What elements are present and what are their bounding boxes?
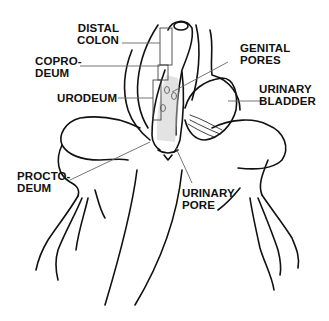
right-foot-3 <box>250 198 274 290</box>
label-line: BLADDER <box>259 95 316 107</box>
label-line: PROCTO- <box>17 170 71 182</box>
body-outline-left <box>137 25 158 128</box>
label-line: DEUM <box>35 67 82 79</box>
label-coprodeum: COPRO- DEUM <box>35 55 82 79</box>
label-distal-colon: DISTAL COLON <box>77 22 119 46</box>
label-line: DISTAL <box>77 22 119 34</box>
vent <box>164 155 172 160</box>
label-urinary-pore: URINARY PORE <box>182 187 235 211</box>
label-urinary-bladder: URINARY BLADDER <box>259 83 316 107</box>
label-line: PORES <box>240 54 290 66</box>
lower-body-right <box>135 170 182 305</box>
label-line: URINARY <box>259 83 316 95</box>
colon-lumen <box>174 22 188 30</box>
label-line: URODEUM <box>57 92 117 104</box>
label-line: COLON <box>77 34 119 46</box>
label-line: URINARY <box>182 187 235 199</box>
right-thigh <box>212 120 286 169</box>
label-line: PORE <box>182 199 235 211</box>
left-thigh <box>61 117 140 160</box>
label-line: GENITAL <box>240 42 290 54</box>
urinary-bladder-shape <box>185 78 237 140</box>
label-urodeum: URODEUM <box>57 92 117 104</box>
label-proctodeum: PROCTO- DEUM <box>17 170 71 194</box>
label-line: DEUM <box>17 182 71 194</box>
left-foot-4 <box>95 190 105 218</box>
label-line: COPRO- <box>35 55 82 67</box>
label-genital-pores: GENITAL PORES <box>240 42 290 66</box>
bracket-distal-colon <box>160 28 172 65</box>
right-shin <box>260 160 268 195</box>
cloaca-diagram: DISTAL COLON COPRO- DEUM URODEUM GENITAL… <box>0 0 329 321</box>
lower-body-left <box>105 170 137 305</box>
leader-urinary-pore <box>176 148 192 183</box>
leader-proctodeum <box>70 142 150 180</box>
right-foot-2 <box>258 198 281 275</box>
body-outline-right <box>210 30 240 110</box>
